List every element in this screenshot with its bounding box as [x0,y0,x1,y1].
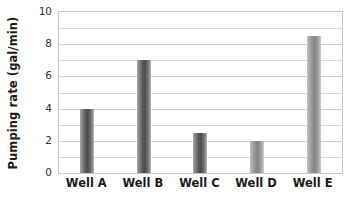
bar-chart: Pumping rate (gal/min) 0246810 Well AWel… [0,0,356,208]
x-tick-label: Well B [123,176,164,190]
x-tick-label: Well E [293,176,333,190]
bar-slot [116,12,173,173]
y-axis-title: Pumping rate (gal/min) [0,0,26,186]
y-tick-label: 8 [45,37,52,49]
x-tick-label: Well A [66,176,107,190]
y-tick-label: 0 [45,166,52,178]
x-tick-label: Well D [235,176,277,190]
y-tick-label: 6 [45,69,52,81]
bar-slot [172,12,229,173]
y-axis-title-text: Pumping rate (gal/min) [6,17,20,170]
bar[interactable] [250,141,264,173]
x-tick-label: Well C [179,176,219,190]
y-axis-tick-labels: 0246810 [26,11,56,174]
plot-area [58,11,343,174]
bar[interactable] [80,109,94,173]
y-tick-label: 4 [45,102,52,114]
x-axis-tick-labels: Well AWell BWell CWell DWell E [58,176,343,198]
bar-slot [59,12,116,173]
bar[interactable] [137,60,151,173]
bar-slot [285,12,342,173]
y-tick-label: 10 [39,5,52,17]
bar-slot [229,12,286,173]
bars-layer [59,12,342,173]
bar[interactable] [307,36,321,173]
y-tick-label: 2 [45,134,52,146]
bar[interactable] [193,133,207,173]
